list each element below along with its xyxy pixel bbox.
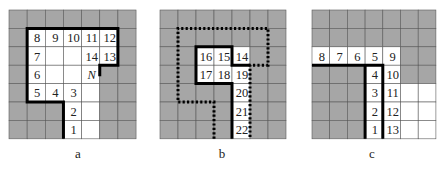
cell-label: 6 [354,50,360,64]
blocked-cell [45,102,63,120]
cell-label: 16 [200,50,213,64]
blocked-cell [100,102,118,120]
cell-label: 14 [85,50,98,64]
blocked-cell [160,47,178,65]
blocked-cell [100,120,118,138]
blocked-cell [100,65,118,83]
blocked-cell [63,10,81,28]
open-cell [418,84,436,102]
open-cell [63,65,81,83]
open-cell [63,47,81,65]
open-cell [82,120,100,138]
blocked-cell [196,84,214,102]
blocked-cell [214,102,232,120]
panel-b: 161514171819202122 [150,0,300,145]
blocked-cell [160,120,178,138]
open-cell [45,47,63,65]
grid-diagram-b: 161514171819202122 [150,0,300,145]
blocked-cell [250,10,268,28]
blocked-cell [118,10,136,28]
blocked-cell [45,120,63,138]
blocked-cell [312,84,330,102]
blocked-cell [250,47,268,65]
blocked-cell [347,120,365,138]
blocked-cell [250,84,268,102]
blocked-cell [401,47,419,65]
blocked-cell [347,84,365,102]
blocked-cell [178,102,196,120]
open-cell [401,120,419,138]
blocked-cell [312,28,330,46]
cell-label: 6 [34,68,40,82]
blocked-cell [268,84,286,102]
cell-label: 7 [336,50,342,64]
cell-label: 2 [70,105,76,119]
caption-b: b [212,146,232,162]
blocked-cell [401,10,419,28]
blocked-cell [118,65,136,83]
cell-label: 4 [52,86,59,100]
blocked-cell [100,10,118,28]
blocked-cell [250,65,268,83]
cell-label: 13 [104,50,117,64]
open-cell [45,65,63,83]
blocked-cell [383,10,401,28]
blocked-cell [178,28,196,46]
cell-label: 14 [236,50,249,64]
blocked-cell [268,10,286,28]
blocked-cell [268,120,286,138]
cell-label: 13 [386,123,399,137]
blocked-cell [9,120,27,138]
blocked-cell [27,10,45,28]
cell-label: 20 [236,86,249,100]
blocked-cell [118,28,136,46]
blocked-cell [312,65,330,83]
open-cell [82,102,100,120]
blocked-cell [9,65,27,83]
blocked-cell [178,10,196,28]
cell-label: 5 [34,86,40,100]
blocked-cell [118,120,136,138]
blocked-cell [330,120,348,138]
blocked-cell [178,47,196,65]
grid-diagram-c: 87659410311212113 [300,0,447,145]
blocked-cell [401,28,419,46]
blocked-cell [401,65,419,83]
blocked-cell [232,28,250,46]
blocked-cell [418,65,436,83]
blocked-cell [214,120,232,138]
blocked-cell [178,65,196,83]
blocked-cell [45,10,63,28]
caption-a: a [68,146,88,162]
blocked-cell [418,10,436,28]
blocked-cell [118,47,136,65]
blocked-cell [268,65,286,83]
cell-label: 17 [200,68,213,82]
cell-label: 8 [34,31,40,45]
cell-label: 3 [372,86,378,100]
blocked-cell [214,28,232,46]
blocked-cell [365,28,383,46]
cell-label: 10 [67,31,80,45]
open-cell [401,102,419,120]
cell-label: 8 [319,50,325,64]
blocked-cell [347,102,365,120]
blocked-cell [178,120,196,138]
cell-label: 3 [70,86,76,100]
blocked-cell [178,84,196,102]
open-cell [418,102,436,120]
cell-label: 21 [236,105,249,119]
blocked-cell [365,10,383,28]
blocked-cell [100,84,118,102]
blocked-cell [418,47,436,65]
cell-label: 11 [387,86,399,100]
blocked-cell [196,102,214,120]
blocked-cell [330,102,348,120]
cell-label: 19 [236,68,249,82]
blocked-cell [250,120,268,138]
cell-label: 18 [218,68,231,82]
blocked-cell [160,84,178,102]
blocked-cell [82,10,100,28]
blocked-cell [160,102,178,120]
blocked-cell [9,47,27,65]
